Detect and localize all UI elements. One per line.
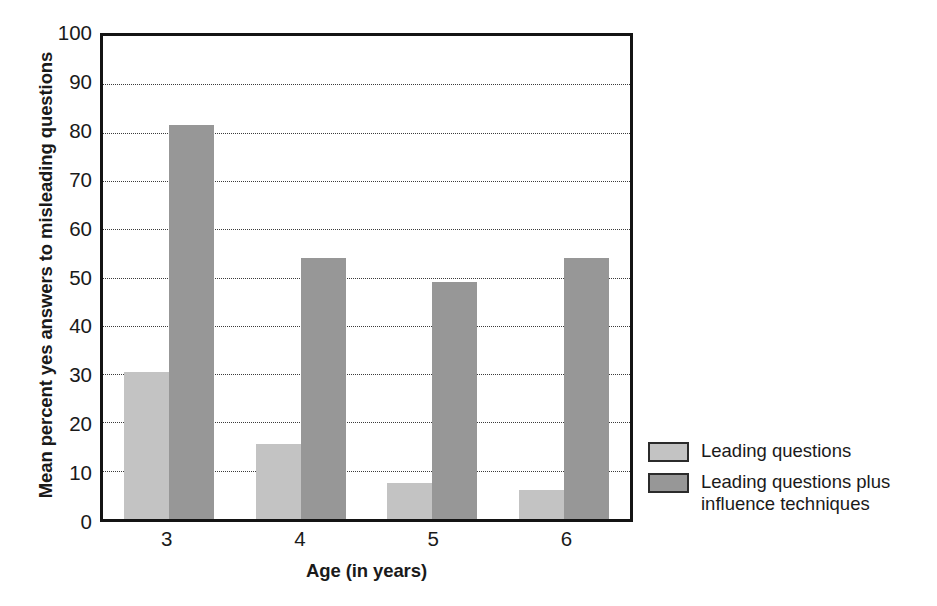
chart-legend: Leading questionsLeading questions plus … (648, 440, 930, 523)
y-tick-label: 60 (44, 217, 92, 241)
bar[interactable] (387, 483, 432, 519)
legend-label: Leading questions (701, 440, 851, 462)
plot-area (100, 33, 633, 522)
bar[interactable] (519, 490, 564, 519)
x-tick-label: 6 (500, 527, 633, 551)
y-tick-label: 70 (44, 168, 92, 192)
y-tick-label: 100 (44, 21, 92, 45)
y-tick-label: 90 (44, 70, 92, 94)
bar-groups (103, 36, 630, 519)
legend-swatch (648, 473, 689, 493)
bar-group (103, 36, 235, 519)
y-tick-label: 30 (44, 363, 92, 387)
x-tick-label: 4 (233, 527, 366, 551)
legend-item[interactable]: Leading questions plus influence techniq… (648, 471, 930, 514)
bar[interactable] (256, 444, 301, 519)
y-axis-tick-labels: 0102030405060708090100 (44, 33, 92, 522)
bar[interactable] (564, 258, 609, 519)
bar[interactable] (124, 372, 169, 519)
x-tick-label: 5 (367, 527, 500, 551)
y-tick-label: 20 (44, 412, 92, 436)
y-tick-label: 50 (44, 266, 92, 290)
x-axis-tick-labels: 3456 (100, 527, 633, 551)
y-tick-label: 10 (44, 461, 92, 485)
x-axis-title: Age (in years) (100, 560, 633, 582)
bar[interactable] (301, 258, 346, 519)
y-tick-label: 0 (44, 510, 92, 534)
bar-group (235, 36, 367, 519)
bar[interactable] (432, 282, 477, 519)
x-tick-label: 3 (100, 527, 233, 551)
bar-chart-figure: Mean percent yes answers to misleading q… (0, 0, 937, 606)
bar-group (367, 36, 499, 519)
legend-item[interactable]: Leading questions (648, 440, 930, 462)
legend-label: Leading questions plus influence techniq… (701, 471, 930, 514)
bar-group (498, 36, 630, 519)
y-tick-label: 40 (44, 314, 92, 338)
legend-swatch (648, 442, 689, 462)
bar[interactable] (169, 125, 214, 519)
y-tick-label: 80 (44, 119, 92, 143)
